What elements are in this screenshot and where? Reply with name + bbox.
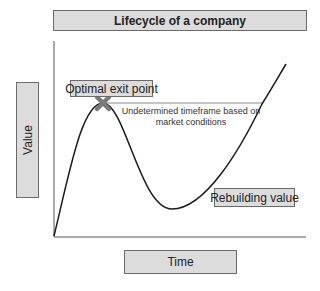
annotation-line-1: Undetermined timeframe based on: [118, 106, 264, 117]
lifecycle-chart: [0, 0, 320, 291]
y-axis-label-text: Value: [21, 125, 35, 155]
timeframe-annotation: Undetermined timeframe based on market c…: [118, 106, 264, 128]
x-axis-label-text: Time: [167, 255, 193, 269]
y-axis-label: Value: [16, 82, 39, 198]
rebuilding-value-text: Rebuilding value: [210, 191, 299, 205]
optimal-exit-label: Optimal exit point: [70, 80, 153, 97]
optimal-exit-text: Optimal exit point: [65, 82, 158, 96]
x-axis-label: Time: [124, 250, 237, 274]
rebuilding-value-label: Rebuilding value: [214, 188, 295, 207]
annotation-line-2: market conditions: [118, 117, 264, 128]
